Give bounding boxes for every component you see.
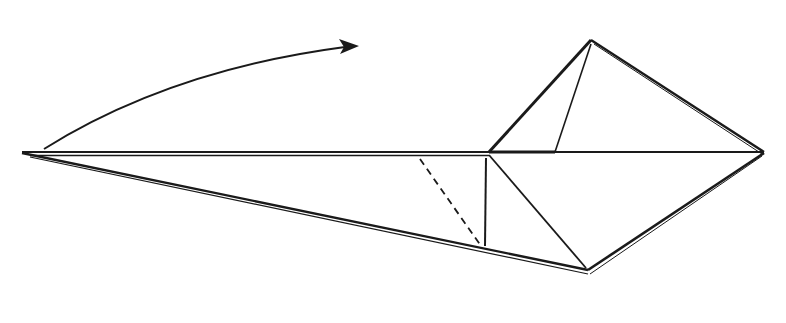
vertical-crease: [485, 158, 486, 246]
origami-diagram: [0, 0, 786, 323]
background: [0, 0, 786, 323]
